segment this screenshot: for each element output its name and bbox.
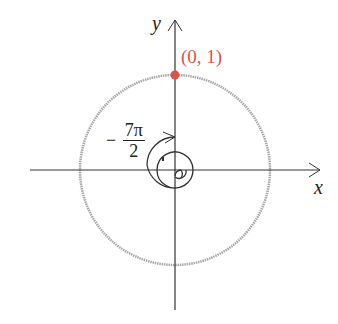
angle-numerator: 7π xyxy=(123,120,145,141)
unit-circle-diagram xyxy=(0,0,338,324)
angle-label: − 7π 2 xyxy=(106,120,145,161)
angle-denominator: 2 xyxy=(129,141,138,161)
point-0-1 xyxy=(171,71,180,80)
center-mark xyxy=(162,157,164,161)
x-axis-label: x xyxy=(314,176,323,199)
rotation-spiral xyxy=(147,137,193,188)
y-axis-label: y xyxy=(152,12,161,35)
angle-sign: − xyxy=(106,130,116,150)
point-label: (0, 1) xyxy=(181,46,222,68)
angle-fraction: 7π 2 xyxy=(123,120,145,161)
